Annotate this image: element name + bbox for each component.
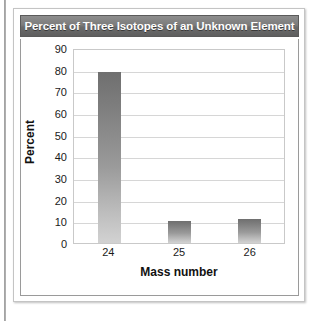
- x-axis-tick-label: 26: [214, 246, 285, 258]
- bars-layer: [74, 50, 284, 243]
- bar-26: [238, 219, 261, 243]
- x-axis-ticks: 242526: [73, 246, 285, 258]
- y-axis-tick-label: 90: [55, 43, 67, 55]
- y-axis-tick-label: 60: [55, 108, 67, 120]
- page-margin-rule: [4, 0, 6, 321]
- y-axis-tick-label: 0: [61, 238, 67, 250]
- x-axis-title: Mass number: [73, 265, 285, 279]
- page-title: Percent of Three Isotopes of an Unknown …: [24, 20, 294, 32]
- figure-card: Percent of Three Isotopes of an Unknown …: [13, 8, 305, 302]
- y-axis-tick-label: 30: [55, 173, 67, 185]
- bar-slot: [214, 50, 284, 243]
- chart-body: Percent 9080706050403020100 242526 Mass …: [20, 39, 299, 296]
- y-axis-tick-label: 50: [55, 130, 67, 142]
- bar-slot: [74, 50, 144, 243]
- x-axis-tick-label: 24: [73, 246, 144, 258]
- bar-24: [98, 72, 121, 243]
- y-axis-tick-label: 10: [55, 216, 67, 228]
- plot-wrap: 9080706050403020100 242526 Mass number: [43, 49, 293, 285]
- y-axis-ticks: 9080706050403020100: [43, 49, 71, 244]
- bar-slot: [144, 50, 214, 243]
- plot-area: [73, 49, 285, 244]
- y-axis-tick-label: 40: [55, 151, 67, 163]
- y-axis-tick-label: 20: [55, 195, 67, 207]
- chart-title-bar: Percent of Three Isotopes of an Unknown …: [20, 15, 299, 37]
- x-axis-tick-label: 25: [144, 246, 215, 258]
- y-axis-title-label: Percent: [23, 119, 37, 163]
- bar-25: [168, 221, 191, 243]
- y-axis-tick-label: 80: [55, 65, 67, 77]
- y-axis-tick-label: 70: [55, 86, 67, 98]
- y-axis-title: Percent: [17, 39, 43, 244]
